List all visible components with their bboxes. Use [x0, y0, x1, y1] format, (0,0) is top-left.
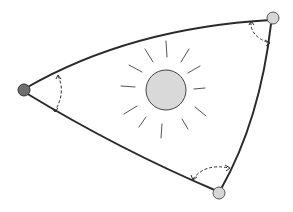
diagram-canvas — [0, 0, 293, 212]
vertex-bottom — [213, 187, 225, 199]
vertex-top-right — [267, 12, 279, 24]
angle-marker-top-right — [249, 21, 270, 46]
edge-left-bottom — [26, 93, 217, 191]
sun-icon — [121, 41, 206, 138]
edge-top-bottom — [221, 24, 271, 189]
vertex-left — [18, 84, 30, 96]
angle-marker-bottom — [191, 165, 230, 180]
spherical-triangle-diagram — [0, 0, 293, 212]
angle-marker-left — [52, 75, 61, 112]
